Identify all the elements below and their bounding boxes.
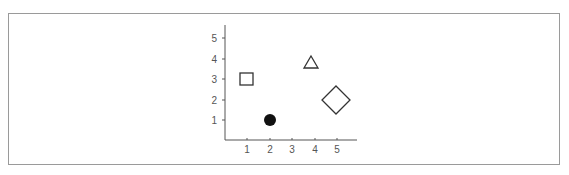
x-ticks: 1 2 3 4 5 bbox=[244, 138, 340, 155]
circle-marker bbox=[264, 114, 276, 126]
x-tick-label: 2 bbox=[267, 144, 273, 155]
y-ticks: 1 2 3 4 5 bbox=[211, 33, 225, 126]
x-tick-label: 3 bbox=[289, 144, 295, 155]
y-tick-label: 1 bbox=[211, 115, 217, 126]
y-tick-label: 4 bbox=[211, 54, 217, 65]
y-tick-label: 2 bbox=[211, 95, 217, 106]
y-tick-label: 3 bbox=[211, 74, 217, 85]
diamond-marker bbox=[322, 86, 350, 114]
x-tick-label: 5 bbox=[334, 144, 340, 155]
x-tick-label: 1 bbox=[244, 144, 250, 155]
square-marker bbox=[240, 73, 253, 85]
y-tick-label: 5 bbox=[211, 33, 217, 44]
scatter-plot: 1 2 3 4 5 1 2 3 4 5 bbox=[0, 0, 569, 175]
triangle-marker bbox=[304, 56, 318, 68]
x-tick-label: 4 bbox=[312, 144, 318, 155]
